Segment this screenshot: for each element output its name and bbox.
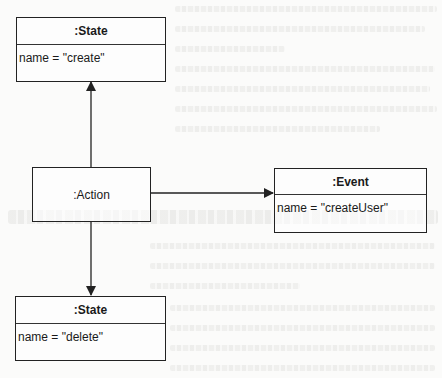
- state-delete-object: :State name = "delete": [15, 296, 166, 361]
- event-object: :Event name = "createUser": [274, 168, 427, 233]
- event-class-label: :Event: [275, 169, 426, 195]
- state-create-attribute: name = "create": [17, 45, 165, 65]
- state-delete-class-label: :State: [16, 297, 165, 324]
- state-create-object: :State name = "create": [16, 17, 166, 82]
- state-delete-attribute: name = "delete": [16, 324, 165, 344]
- event-attribute: name = "createUser": [275, 195, 426, 215]
- state-create-class-label: :State: [17, 18, 165, 45]
- action-object: :Action: [32, 167, 151, 222]
- action-class-label: :Action: [73, 188, 110, 202]
